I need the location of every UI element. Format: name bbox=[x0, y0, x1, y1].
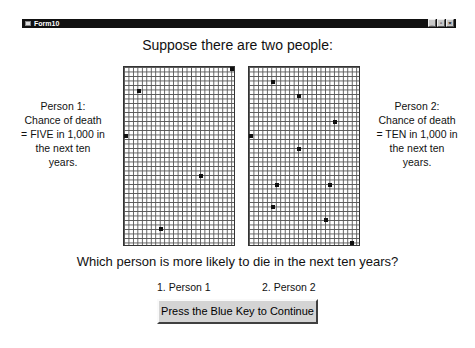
person2-line: Person 2: bbox=[362, 99, 472, 113]
person2-line: the next ten bbox=[362, 141, 472, 155]
person2-description: Person 2: Chance of death = TEN in 1,000… bbox=[362, 99, 472, 169]
person1-line: = FIVE in 1,000 in bbox=[8, 127, 118, 141]
marked-cell bbox=[333, 120, 337, 124]
person1-line: Person 1: bbox=[8, 99, 118, 113]
marked-cell bbox=[159, 227, 163, 231]
window-controls: _ ▫ × bbox=[428, 19, 454, 28]
marked-cell bbox=[328, 183, 332, 187]
continue-button[interactable]: Press the Blue Key to Continue bbox=[157, 299, 318, 324]
app-icon bbox=[25, 21, 31, 26]
close-button[interactable]: × bbox=[446, 19, 454, 27]
marked-cell bbox=[297, 94, 301, 98]
marked-cell bbox=[230, 67, 234, 71]
maximize-button[interactable]: ▫ bbox=[437, 19, 445, 27]
marked-cell bbox=[297, 147, 301, 151]
title-bar: Form10 _ ▫ × bbox=[22, 19, 456, 28]
person1-risk-grid bbox=[123, 66, 235, 246]
option-person-2[interactable]: 2. Person 2 bbox=[262, 281, 316, 293]
person2-line: Chance of death bbox=[362, 113, 472, 127]
person2-risk-grid bbox=[248, 66, 360, 246]
person1-line: the next ten bbox=[8, 141, 118, 155]
minimize-button[interactable]: _ bbox=[428, 19, 436, 27]
marked-cell bbox=[350, 241, 354, 245]
person1-line: years. bbox=[8, 155, 118, 169]
marked-cell bbox=[124, 134, 128, 138]
person2-line: years. bbox=[362, 155, 472, 169]
marked-cell bbox=[199, 174, 203, 178]
marked-cell bbox=[249, 134, 253, 138]
window-title: Form10 bbox=[34, 19, 59, 28]
marked-cell bbox=[275, 183, 279, 187]
person2-line: = TEN in 1,000 in bbox=[362, 127, 472, 141]
person1-description: Person 1: Chance of death = FIVE in 1,00… bbox=[8, 99, 118, 169]
marked-cell bbox=[271, 205, 275, 209]
marked-cell bbox=[324, 218, 328, 222]
question-text: Which person is more likely to die in th… bbox=[0, 254, 475, 269]
person1-line: Chance of death bbox=[8, 113, 118, 127]
option-person-1[interactable]: 1. Person 1 bbox=[157, 281, 211, 293]
marked-cell bbox=[271, 80, 275, 84]
heading: Suppose there are two people: bbox=[0, 37, 475, 53]
marked-cell bbox=[137, 89, 141, 93]
